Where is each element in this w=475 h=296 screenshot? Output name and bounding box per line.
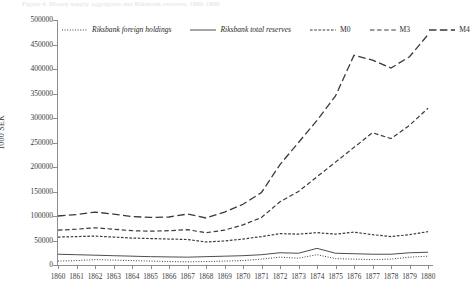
y-tick-label-wrap: 300000: [0, 114, 53, 122]
series-line-m4: [58, 35, 428, 218]
x-tick: [188, 265, 189, 269]
y-tick-label-wrap: 400000: [0, 65, 53, 73]
series-line-riksbank-total-reserves: [58, 248, 428, 257]
y-tick-label-wrap: 200000: [0, 163, 53, 171]
series-lines: [57, 20, 432, 265]
series-line-m0: [58, 232, 428, 242]
y-tick-label: 300000: [9, 114, 53, 122]
x-tick: [151, 265, 152, 269]
x-tick: [114, 265, 115, 269]
y-tick-label-wrap: 450000: [0, 41, 53, 49]
y-tick-label-wrap: 0: [0, 261, 53, 269]
y-tick-label: 450000: [9, 41, 53, 49]
y-tick-label: 250000: [9, 139, 53, 147]
x-tick: [132, 265, 133, 269]
y-axis-title: 1000 SEK: [0, 115, 6, 150]
y-tick-label-wrap: 350000: [0, 90, 53, 98]
y-tick-label: 500000: [9, 16, 53, 24]
x-tick: [169, 265, 170, 269]
y-tick-label-wrap: 500000: [0, 16, 53, 24]
x-tick: [428, 265, 429, 269]
x-tick: [317, 265, 318, 269]
y-tick: [53, 265, 57, 266]
y-tick-label: 400000: [9, 65, 53, 73]
x-tick: [95, 265, 96, 269]
y-tick-label-wrap: 250000: [0, 139, 53, 147]
y-tick-label-wrap: 100000: [0, 212, 53, 220]
legend-label: M4: [459, 25, 470, 34]
x-tick: [410, 265, 411, 269]
y-tick-label: 100000: [9, 212, 53, 220]
y-tick-label: 0: [9, 261, 53, 269]
x-tick: [77, 265, 78, 269]
x-tick: [354, 265, 355, 269]
legend-item-m4[interactable]: M4: [429, 25, 470, 34]
x-tick: [262, 265, 263, 269]
y-tick-label-wrap: 150000: [0, 188, 53, 196]
x-tick: [373, 265, 374, 269]
x-tick-label: 1880: [416, 272, 440, 281]
x-tick: [391, 265, 392, 269]
x-tick: [243, 265, 244, 269]
plot-area: [57, 20, 432, 265]
figure-caption: Figure 4. Money supply aggregates and Ri…: [22, 0, 322, 9]
y-tick-label: 200000: [9, 163, 53, 171]
x-tick: [58, 265, 59, 269]
legend-swatch-long-dash: [429, 27, 455, 33]
y-tick-label-wrap: 50000: [0, 237, 53, 245]
y-tick-label: 350000: [9, 90, 53, 98]
x-tick: [336, 265, 337, 269]
y-tick-label: 50000: [9, 237, 53, 245]
x-tick: [280, 265, 281, 269]
y-tick-label: 150000: [9, 188, 53, 196]
x-tick: [206, 265, 207, 269]
x-tick: [225, 265, 226, 269]
x-tick: [299, 265, 300, 269]
